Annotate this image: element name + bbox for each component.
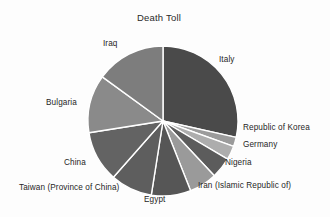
slice-label-china: China (64, 159, 86, 167)
slice-label-nigeria: Nigeria (225, 159, 252, 167)
slice-label-republic-of-korea: Republic of Korea (243, 124, 310, 132)
slice-label-taiwan: Taiwan (Province of China) (19, 184, 119, 192)
pie-slices (88, 46, 238, 196)
slice-label-iraq: Iraq (103, 40, 118, 48)
slice-label-egypt: Egypt (144, 196, 165, 204)
chart-canvas: Death Toll Italy Republic of Korea Germa… (0, 0, 330, 217)
slice-label-italy: Italy (219, 56, 235, 64)
slice-label-germany: Germany (243, 141, 277, 149)
slice-label-iran: Iran (Islamic Republic of) (198, 182, 291, 190)
slice-label-bulgaria: Bulgaria (46, 99, 77, 107)
